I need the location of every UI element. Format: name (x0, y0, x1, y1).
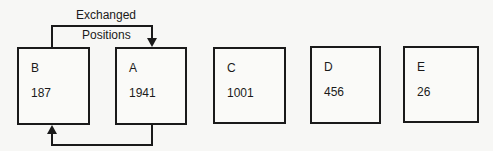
arrow-down-icon (147, 38, 157, 47)
box-c: C 1001 (213, 47, 286, 124)
box-b: B 187 (17, 47, 90, 125)
box-a: A 1941 (115, 47, 187, 125)
box-label: C (227, 61, 236, 75)
box-value: 1001 (227, 86, 254, 100)
caption-positions: Positions (82, 28, 131, 42)
box-value: 1941 (129, 86, 156, 100)
box-value: 26 (417, 85, 430, 99)
box-label: B (31, 61, 39, 75)
box-label: A (129, 61, 137, 75)
box-value: 456 (324, 85, 344, 99)
box-e: E 26 (403, 46, 479, 123)
arrow-up-icon (47, 125, 57, 134)
box-d: D 456 (310, 46, 381, 124)
caption-exchanged: Exchanged (76, 8, 136, 22)
bottom-connector-line (52, 124, 152, 145)
box-value: 187 (31, 86, 51, 100)
box-label: D (324, 60, 333, 74)
box-label: E (417, 60, 425, 74)
